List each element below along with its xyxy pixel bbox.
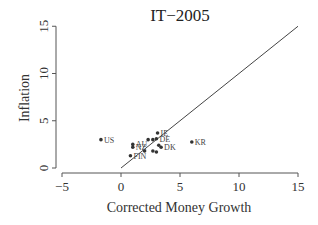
- y-tick-label: 10: [36, 67, 51, 80]
- x-tick-label: −5: [55, 179, 69, 194]
- data-point: [190, 140, 194, 144]
- tick-labels: 051015−5051015: [36, 20, 305, 194]
- reference-line: [121, 26, 298, 168]
- data-point: [155, 137, 159, 141]
- point-label: FIN: [133, 152, 146, 161]
- y-tick-label: 0: [36, 165, 51, 172]
- x-tick-label: 15: [292, 179, 305, 194]
- data-point: [151, 138, 155, 142]
- chart-title: IT−2005: [150, 6, 210, 25]
- data-point: [99, 138, 103, 142]
- data-points: USKRIEAUNZFINDEDK: [99, 129, 206, 161]
- point-label: KR: [195, 138, 207, 147]
- data-point: [129, 154, 133, 158]
- y-tick-label: 15: [36, 20, 51, 33]
- x-tick-label: 0: [118, 179, 125, 194]
- x-axis-label: Corrected Money Growth: [107, 200, 252, 215]
- point-label: US: [104, 136, 114, 145]
- data-point: [155, 150, 159, 154]
- axes: [52, 26, 298, 177]
- x-tick-label: 5: [177, 179, 184, 194]
- data-point: [146, 138, 150, 142]
- point-label: DK: [164, 143, 176, 152]
- scatter-chart: IT−2005 051015−5051015 Inflation Correct…: [0, 0, 318, 225]
- y-axis-label: Inflation: [17, 74, 32, 122]
- data-point: [131, 145, 135, 149]
- data-point: [159, 145, 163, 149]
- data-point: [143, 149, 147, 153]
- data-point: [151, 149, 155, 153]
- y-tick-label: 5: [36, 118, 51, 125]
- x-tick-label: 10: [233, 179, 246, 194]
